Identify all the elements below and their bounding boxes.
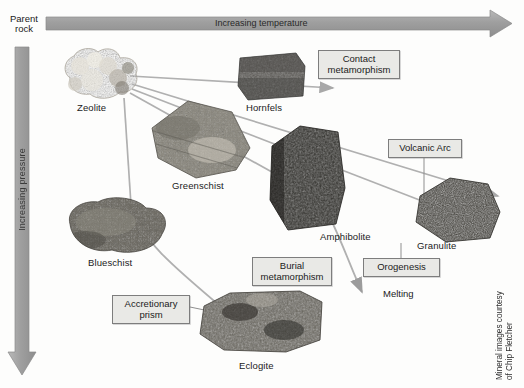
arrow-layer: [0, 0, 524, 388]
rock-image-hornfels: [236, 50, 308, 104]
rock-label-zeolite: Zeolite: [77, 102, 106, 113]
pressure-axis-label: Increasing pressure: [17, 148, 27, 231]
rock-label-eclogite: Eclogite: [239, 360, 274, 371]
callout-volcanic-arc[interactable]: Volcanic Arc: [388, 139, 462, 158]
rock-image-granulite: [412, 174, 504, 246]
callout-orogenesis[interactable]: Orogenesis: [363, 258, 440, 277]
callout-contact-metamorphism[interactable]: Contact metamorphism: [318, 50, 400, 79]
rock-label-blueschist: Blueschist: [88, 257, 132, 268]
metamorphic-facies-diagram: Parent rock Increasing temperature Incre…: [0, 0, 524, 388]
melting-label: Melting: [383, 288, 414, 299]
rock-image-amphibolite: [266, 122, 350, 234]
rock-label-hornfels: Hornfels: [246, 102, 282, 113]
parent-rock-label: Parent rock: [2, 14, 46, 34]
rock-label-amphibolite: Amphibolite: [320, 231, 371, 242]
rock-label-granulite: Granulite: [417, 240, 456, 251]
rock-label-greenschist: Greenschist: [172, 180, 224, 191]
rock-image-eclogite: [196, 288, 326, 354]
callout-burial-metamorphism[interactable]: Burial metamorphism: [252, 257, 332, 286]
image-credit: Mineral images courtesy of Chip Fletcher: [495, 272, 515, 380]
rock-image-greenschist: [148, 96, 256, 182]
temperature-axis-label: Increasing temperature: [215, 18, 308, 28]
rock-image-zeolite: [58, 48, 142, 102]
callout-accretionary-prism[interactable]: Accretionary prism: [112, 295, 190, 324]
